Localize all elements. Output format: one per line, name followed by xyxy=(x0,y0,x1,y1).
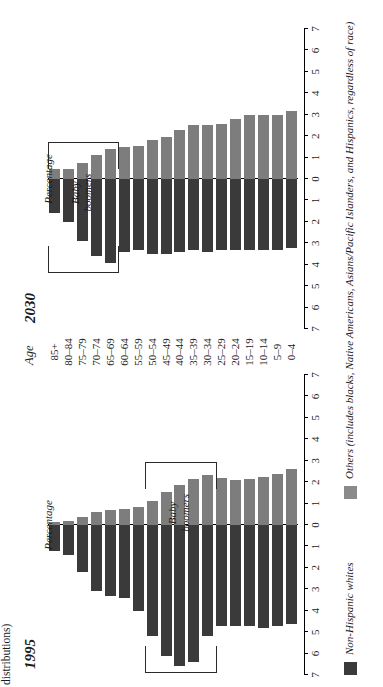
bar-others xyxy=(216,478,227,525)
bar-non-hispanic-whites xyxy=(133,525,144,611)
bar-non-hispanic-whites xyxy=(244,179,255,250)
x-axis-tick xyxy=(304,199,308,200)
bar-row xyxy=(286,29,297,329)
bar-row xyxy=(161,29,172,329)
x-axis-tick xyxy=(304,49,308,50)
bar-others xyxy=(133,146,144,179)
x-axis-tick xyxy=(304,653,308,654)
x-axis-tick xyxy=(304,135,308,136)
bar-row xyxy=(147,375,158,675)
bar-non-hispanic-whites xyxy=(258,179,269,250)
bar-row xyxy=(174,29,185,329)
bar-row xyxy=(63,375,74,675)
x-axis-tick-label: 1 xyxy=(309,497,321,511)
x-axis-tick-label: 1 xyxy=(309,193,321,207)
bar-row xyxy=(147,29,158,329)
x-axis-tick-label: 6 xyxy=(309,389,321,403)
panel-title-2030: 2030 xyxy=(22,293,39,323)
x-axis-tick xyxy=(304,567,308,568)
x-axis-tick-label: 5 xyxy=(309,411,321,425)
baby-boomers-label-line1: Baby xyxy=(69,171,82,215)
bar-row xyxy=(216,29,227,329)
bar-non-hispanic-whites xyxy=(202,179,213,252)
x-axis-tick xyxy=(304,178,308,179)
x-axis-2030: 765432101234567 xyxy=(304,29,305,329)
bar-non-hispanic-whites xyxy=(286,179,297,248)
bar-non-hispanic-whites xyxy=(174,179,185,252)
baby-boomers-bracket xyxy=(48,246,119,273)
bar-non-hispanic-whites xyxy=(258,525,269,628)
age-group-label: 45–49 xyxy=(160,329,172,375)
bar-row xyxy=(133,375,144,675)
x-axis-tick-label: 7 xyxy=(309,322,321,336)
age-group-label: 10–14 xyxy=(257,329,269,375)
bar-others xyxy=(272,474,283,525)
x-axis-tick xyxy=(304,610,308,611)
bar-non-hispanic-whites xyxy=(244,525,255,626)
bar-non-hispanic-whites xyxy=(161,179,172,254)
bar-row xyxy=(133,29,144,329)
bar-non-hispanic-whites xyxy=(216,179,227,250)
age-group-label: 55–59 xyxy=(132,329,144,375)
x-axis-tick xyxy=(304,417,308,418)
bar-non-hispanic-whites xyxy=(119,525,130,598)
population-pyramid-figure: distributions) 1995 765432101234567 Perc… xyxy=(0,0,383,687)
x-axis-tick xyxy=(304,503,308,504)
age-group-label: 40–44 xyxy=(173,329,185,375)
bar-non-hispanic-whites xyxy=(230,179,241,250)
bar-others xyxy=(216,124,227,179)
bar-others xyxy=(147,140,158,179)
x-axis-tick xyxy=(304,631,308,632)
baby-boomers-bracket xyxy=(145,646,216,673)
bar-non-hispanic-whites xyxy=(77,525,88,572)
bar-others xyxy=(244,479,255,525)
bar-others xyxy=(63,521,74,525)
dark-swatch xyxy=(344,662,357,675)
bar-non-hispanic-whites xyxy=(216,525,227,626)
panel-title-1995: 1995 xyxy=(22,639,39,669)
baby-boomers-bracket xyxy=(48,142,119,169)
x-axis-tick-label: 6 xyxy=(309,43,321,57)
bar-non-hispanic-whites xyxy=(272,525,283,626)
x-axis-tick xyxy=(304,438,308,439)
bar-others xyxy=(258,477,269,525)
age-group-label: 75–79 xyxy=(76,329,88,375)
panel-2030: 2030 765432101234567 Percentage Babyboom… xyxy=(22,29,322,329)
bar-non-hispanic-whites xyxy=(133,179,144,250)
bar-others xyxy=(230,480,241,525)
x-axis-tick xyxy=(304,71,308,72)
x-axis-tick-label: 6 xyxy=(309,647,321,661)
x-axis-tick-label: 4 xyxy=(309,432,321,446)
baby-boomers-label: Babyboomers xyxy=(166,491,191,535)
bar-others xyxy=(105,510,116,525)
x-axis-tick xyxy=(304,264,308,265)
x-axis-tick xyxy=(304,28,308,29)
bar-row xyxy=(77,375,88,675)
legend-label-non-hispanic-whites: Non-Hispanic whites xyxy=(343,562,355,655)
x-axis-tick xyxy=(304,545,308,546)
x-axis-tick-label: 2 xyxy=(309,475,321,489)
x-axis-tick xyxy=(304,114,308,115)
legend-label-others: Others (includes blacks, Native American… xyxy=(343,22,355,479)
bar-non-hispanic-whites xyxy=(63,525,74,555)
x-axis-tick-label: 6 xyxy=(309,301,321,315)
x-axis-tick xyxy=(304,588,308,589)
bar-row xyxy=(286,375,297,675)
age-group-label: 65–69 xyxy=(104,329,116,375)
x-axis-tick xyxy=(304,242,308,243)
bar-non-hispanic-whites xyxy=(147,525,158,636)
bar-row xyxy=(202,29,213,329)
age-group-label: 70–74 xyxy=(90,329,102,375)
x-axis-tick-label: 0 xyxy=(309,172,321,186)
baby-boomers-label-line2: boomers xyxy=(179,491,192,535)
bar-others xyxy=(91,512,102,525)
bar-row xyxy=(244,375,255,675)
baby-boomers-label-line2: boomers xyxy=(81,171,94,215)
x-axis-tick-label: 2 xyxy=(309,215,321,229)
bar-others xyxy=(147,501,158,525)
x-axis-tick-label: 5 xyxy=(309,65,321,79)
baby-boomers-bracket xyxy=(145,462,216,489)
bar-row xyxy=(258,375,269,675)
bar-row xyxy=(272,375,283,675)
bar-row xyxy=(119,29,130,329)
